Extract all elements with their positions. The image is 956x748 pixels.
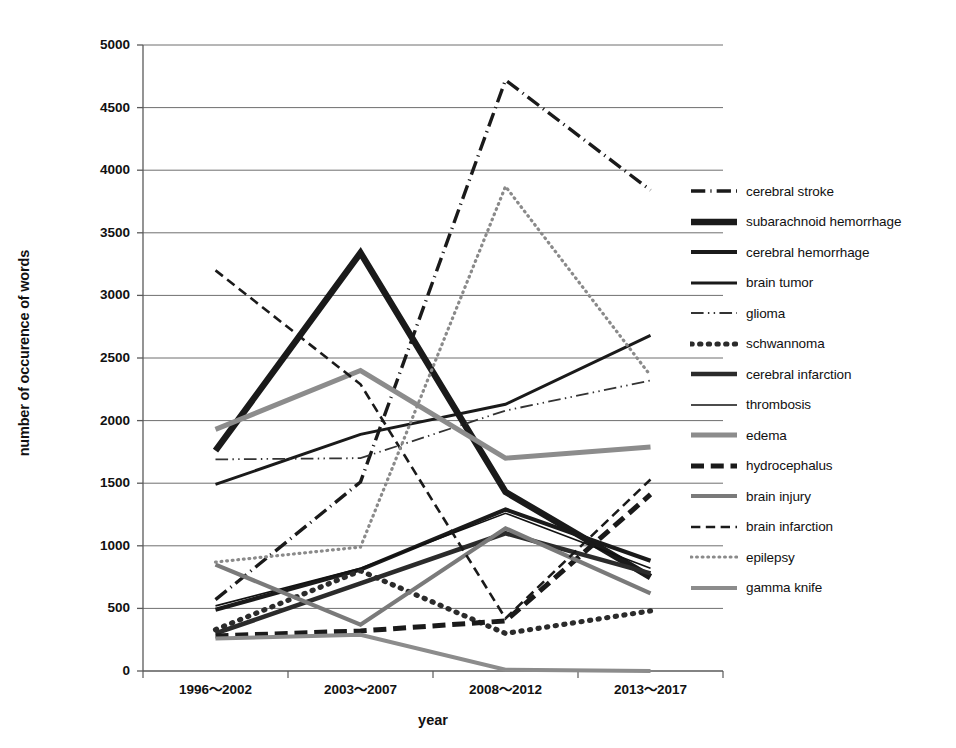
legend-swatch-icon bbox=[690, 398, 738, 412]
legend-item-label: cerebral hemorrhage bbox=[746, 245, 869, 260]
legend-item[interactable]: epilepsy bbox=[690, 542, 948, 573]
legend-item-label: cerebral stroke bbox=[746, 184, 834, 199]
x-axis-tick-label: 2003～2007 bbox=[324, 678, 397, 698]
y-axis-tick-label: 5000 bbox=[30, 37, 130, 52]
legend-item[interactable]: brain infarction bbox=[690, 512, 948, 543]
x-axis-title: year bbox=[143, 712, 723, 728]
legend-swatch-icon bbox=[690, 581, 738, 595]
series-line bbox=[216, 371, 651, 459]
legend-swatch-icon bbox=[690, 367, 738, 381]
legend-item-label: thrombosis bbox=[746, 397, 811, 412]
legend-item-label: cerebral infarction bbox=[746, 367, 851, 382]
series-group bbox=[216, 80, 651, 671]
legend-item[interactable]: glioma bbox=[690, 298, 948, 329]
legend-item-label: brain tumor bbox=[746, 275, 813, 290]
legend-swatch-icon bbox=[690, 428, 738, 442]
x-axis-tick-label: 1996～2002 bbox=[179, 678, 252, 698]
legend-item[interactable]: thrombosis bbox=[690, 390, 948, 421]
legend-swatch-icon bbox=[690, 184, 738, 198]
y-axis-tick-label: 4500 bbox=[30, 100, 130, 115]
series-line bbox=[216, 635, 651, 671]
legend-item-label: hydrocephalus bbox=[746, 458, 833, 473]
legend-item[interactable]: cerebral hemorrhage bbox=[690, 237, 948, 268]
legend-swatch-icon bbox=[690, 306, 738, 320]
legend: cerebral strokesubarachnoid hemorrhagece… bbox=[690, 176, 948, 603]
legend-item-label: glioma bbox=[746, 306, 785, 321]
legend-swatch-icon bbox=[690, 520, 738, 534]
line-chart: 0500100015002000250030003500400045005000… bbox=[0, 0, 956, 748]
legend-item-label: schwannoma bbox=[746, 336, 825, 351]
legend-swatch-icon bbox=[690, 276, 738, 290]
legend-item[interactable]: hydrocephalus bbox=[690, 451, 948, 482]
legend-swatch-icon bbox=[690, 215, 738, 229]
legend-item-label: epilepsy bbox=[746, 550, 795, 565]
legend-item[interactable]: gamma knife bbox=[690, 573, 948, 604]
legend-item[interactable]: cerebral stroke bbox=[690, 176, 948, 207]
legend-item[interactable]: cerebral infarction bbox=[690, 359, 948, 390]
legend-item[interactable]: brain injury bbox=[690, 481, 948, 512]
legend-item-label: brain infarction bbox=[746, 519, 833, 534]
legend-item[interactable]: brain tumor bbox=[690, 268, 948, 299]
y-axis-tick-label: 0 bbox=[30, 663, 130, 678]
y-axis-tick-label: 1000 bbox=[30, 538, 130, 553]
x-axis-tick-label: 2008～2012 bbox=[469, 678, 542, 698]
legend-swatch-icon bbox=[690, 489, 738, 503]
legend-item-label: edema bbox=[746, 428, 787, 443]
legend-swatch-icon bbox=[690, 459, 738, 473]
legend-item-label: subarachnoid hemorrhage bbox=[746, 214, 901, 229]
legend-item[interactable]: schwannoma bbox=[690, 329, 948, 360]
legend-item[interactable]: subarachnoid hemorrhage bbox=[690, 207, 948, 238]
legend-item-label: gamma knife bbox=[746, 580, 822, 595]
legend-swatch-icon bbox=[690, 337, 738, 351]
y-axis-tick-label: 3500 bbox=[30, 225, 130, 240]
y-axis-title: number of occurence of words bbox=[16, 250, 46, 456]
y-axis-tick-label: 4000 bbox=[30, 162, 130, 177]
x-axis-tick-label: 2013～2017 bbox=[614, 678, 687, 698]
y-axis-tick-label: 500 bbox=[30, 600, 130, 615]
legend-item-label: brain injury bbox=[746, 489, 811, 504]
y-axis-tick-label: 1500 bbox=[30, 475, 130, 490]
legend-swatch-icon bbox=[690, 550, 738, 564]
legend-item[interactable]: edema bbox=[690, 420, 948, 451]
legend-swatch-icon bbox=[690, 245, 738, 259]
series-line bbox=[216, 80, 651, 600]
